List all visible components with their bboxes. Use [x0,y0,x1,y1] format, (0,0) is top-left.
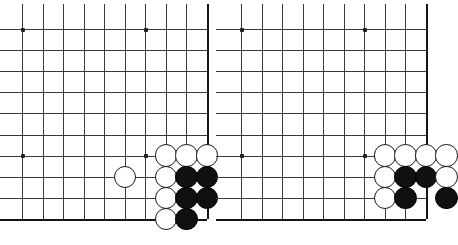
grid-line-vertical [282,4,283,219]
star-point [363,154,367,158]
white-stone[interactable] [435,166,457,188]
white-stone[interactable] [394,144,416,166]
white-stone[interactable] [374,144,396,166]
grid-line-horizontal [216,29,426,30]
grid-line-horizontal [216,71,426,72]
black-stone[interactable] [435,187,457,209]
grid-line-horizontal [216,113,426,114]
grid-line-vertical [241,4,242,219]
grid-line-vertical [323,4,324,219]
grid-line-vertical [344,4,345,219]
grid-line-horizontal [216,219,426,221]
white-stone[interactable] [435,144,457,166]
right-board [0,0,226,245]
white-stone[interactable] [374,166,396,188]
white-stone[interactable] [415,144,437,166]
star-point [240,28,244,32]
grid-line-horizontal [216,92,426,93]
grid-line-horizontal [216,135,426,136]
black-stone[interactable] [415,166,437,188]
white-stone[interactable] [374,187,396,209]
grid-line-vertical [262,4,263,219]
grid-line-horizontal [216,50,426,51]
board-grid-right [0,0,226,245]
black-stone[interactable] [394,187,416,209]
star-point [240,154,244,158]
star-point [363,28,367,32]
grid-line-vertical [303,4,304,219]
grid-line-vertical [364,4,365,219]
black-stone[interactable] [394,166,416,188]
